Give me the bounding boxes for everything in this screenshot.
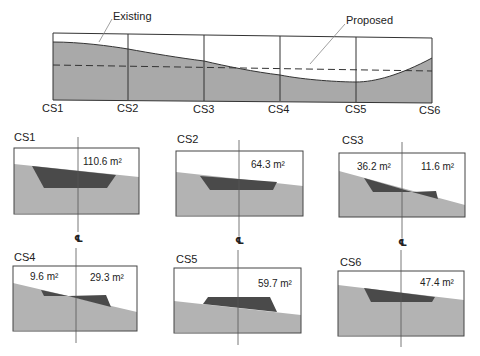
cs3-title: CS3 [342, 134, 363, 146]
earthwork-diagram: Existing Proposed CS1 CS2 CS3 CS4 CS5 CS… [0, 0, 480, 356]
centerline-symbol-3: ℄ [398, 237, 407, 248]
cs3-area-fill: 11.6 m² [421, 161, 455, 172]
cs6-title: CS6 [340, 256, 361, 268]
cs4-title: CS4 [14, 251, 35, 263]
cs1-cut [32, 166, 116, 188]
station-label-cs1: CS1 [42, 102, 63, 114]
station-label-cs2: CS2 [117, 102, 138, 114]
cross-section-cs4: CS4 9.6 m² 29.3 m² [13, 248, 137, 343]
cs2-ground [176, 172, 303, 216]
proposed-label: Proposed [346, 14, 393, 26]
cs4-ground [13, 283, 137, 331]
cross-section-cs3: CS3 36.2 m² 11.6 m² [339, 134, 465, 238]
existing-label: Existing [113, 10, 152, 22]
cs5-title: CS5 [176, 253, 197, 265]
cs4-area-fill: 29.3 m² [90, 272, 125, 283]
cs3-area-cut: 36.2 m² [357, 161, 392, 172]
centerline-symbol-2: ℄ [235, 235, 244, 246]
cs4-area-cut: 9.6 m² [30, 271, 59, 282]
cross-section-cs5: CS5 59.7 m² [174, 250, 301, 345]
cs2-cut [200, 176, 277, 190]
station-label-cs6: CS6 [419, 104, 440, 116]
cs1-title: CS1 [14, 131, 35, 143]
existing-ground-area [53, 42, 432, 103]
cs2-area: 64.3 m² [251, 159, 286, 170]
cs2-title: CS2 [177, 133, 198, 145]
cross-section-cs2: CS2 64.3 m² [176, 133, 303, 236]
longitudinal-profile: Existing Proposed CS1 CS2 CS3 CS4 CS5 CS… [42, 10, 440, 116]
station-label-cs4: CS4 [268, 103, 289, 115]
cs6-cut [364, 288, 435, 302]
cross-section-cs6: CS6 47.4 m² [338, 250, 464, 347]
cs5-area: 59.7 m² [258, 278, 293, 289]
proposed-leader [310, 24, 345, 64]
station-label-cs5: CS5 [345, 103, 366, 115]
cs6-area: 47.4 m² [420, 277, 455, 288]
existing-leader [99, 19, 112, 42]
station-label-cs3: CS3 [193, 103, 214, 115]
cs1-area: 110.6 m² [83, 156, 122, 167]
centerline-symbol-1: ℄ [74, 233, 83, 244]
cross-section-cs1: CS1 110.6 m² [14, 131, 139, 232]
